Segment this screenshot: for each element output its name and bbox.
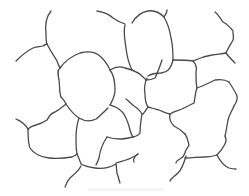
cell-boundary-diagram xyxy=(0,0,249,196)
faint-watermark xyxy=(88,188,164,191)
